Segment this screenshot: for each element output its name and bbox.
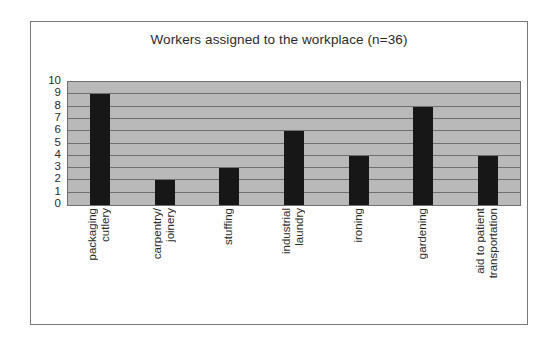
y-tick-label: 1 (55, 186, 61, 198)
x-tick-label-line: joinery (164, 208, 177, 242)
bar (349, 156, 369, 205)
y-axis: 109876543210 (31, 81, 64, 206)
x-tick-label: industriallaundry (261, 208, 326, 320)
x-tick-label-line: aid to patient (474, 208, 487, 274)
x-tick-label: gardening (390, 208, 455, 320)
x-tick-label-line: carpentry/ (151, 208, 164, 259)
y-tick-label: 8 (55, 100, 61, 112)
y-tick-label: 9 (55, 88, 61, 100)
chart-figure: Workers assigned to the workplace (n=36)… (30, 21, 528, 325)
y-tick-label: 3 (55, 161, 61, 173)
bar (284, 131, 304, 205)
y-tick-label: 6 (55, 124, 61, 136)
y-tick-label: 10 (48, 75, 61, 87)
x-tick-label-line: laundry (293, 208, 306, 246)
y-tick-label: 5 (55, 137, 61, 149)
x-axis: packagingcutlerycarpentry/joinerystuffin… (67, 208, 521, 320)
x-tick-label-line: industrial (280, 208, 293, 254)
plot-area (67, 81, 521, 206)
x-tick-label: stuffing (196, 208, 261, 320)
gridline (68, 106, 520, 107)
bar (478, 156, 498, 205)
x-tick-label-line: packaging (86, 208, 99, 260)
x-tick-label-line: gardening (416, 208, 429, 259)
bar (219, 168, 239, 205)
x-tick-label-line: transportation (487, 208, 500, 278)
y-tick-label: 4 (55, 149, 61, 161)
y-tick-label: 2 (55, 174, 61, 186)
bar (155, 180, 175, 205)
gridline (68, 93, 520, 94)
bar (90, 94, 110, 205)
x-tick-label-line: cutlery (99, 208, 112, 242)
gridline (68, 118, 520, 119)
y-tick-label: 0 (55, 198, 61, 210)
x-tick-label: ironing (325, 208, 390, 320)
x-tick-label: packagingcutlery (67, 208, 132, 320)
gridline (68, 81, 520, 82)
x-tick-label: carpentry/joinery (132, 208, 197, 320)
bar (413, 107, 433, 205)
x-tick-label-line: stuffing (222, 208, 235, 245)
x-tick-label-line: ironing (351, 208, 364, 243)
x-tick-label: aid to patienttransportation (454, 208, 519, 320)
y-tick-label: 7 (55, 112, 61, 124)
chart-title: Workers assigned to the workplace (n=36) (31, 32, 527, 47)
